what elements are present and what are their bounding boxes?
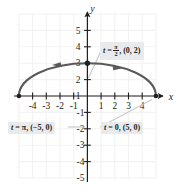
point-t-equals-0 [154, 94, 159, 99]
parametric-ellipse-figure: -4 -3 -2 -1 1 2 3 4 5 4 3 2 1 -1 -2 -3 -… [0, 0, 187, 192]
leader-line-top [89, 52, 101, 78]
y-tick-label-1: 1 [76, 91, 81, 101]
y-tick-label-2: 2 [76, 75, 81, 85]
x-tick-label-1: 1 [99, 101, 104, 111]
y-tick-label--4: -4 [77, 157, 85, 167]
x-tick-label-3: 3 [126, 101, 131, 111]
callout-t-pi-over-2: t = π 2 , (0, 2) [100, 42, 144, 60]
coordinate-plane: -4 -3 -2 -1 1 2 3 4 5 4 3 2 1 -1 -2 -3 -… [0, 0, 187, 192]
x-tick-label-2: 2 [112, 101, 117, 111]
y-tick-label--2: -2 [77, 124, 85, 134]
y-tick-label-4: 4 [76, 42, 81, 52]
callout-left-point: (−5, 0) [28, 124, 52, 132]
y-tick-label--3: -3 [77, 140, 85, 150]
callout-t-pi: t = π , (−5, 0) [8, 122, 55, 134]
x-tick-label--2: -2 [56, 101, 64, 111]
x-tick-label--4: -4 [29, 101, 37, 111]
y-tick-label--5: -5 [77, 173, 85, 183]
callout-top-denominator: 2 [113, 50, 118, 58]
callout-top-fraction: π 2 [113, 44, 118, 58]
y-tick-label-5: 5 [76, 26, 81, 36]
point-t-equals-pi [17, 94, 22, 99]
y-tick-label--1: -1 [77, 108, 85, 118]
y-axis-label: y [89, 3, 95, 14]
callout-right-point: (5, 0) [121, 124, 140, 132]
x-axis-label: x [168, 91, 174, 102]
point-t-equals-pi-over-2 [85, 61, 90, 66]
callout-t-zero: t = 0 , (5, 0) [101, 122, 143, 134]
callout-top-equals: = [106, 47, 113, 55]
callout-top-point: (0, 2) [121, 47, 140, 55]
axis-lines [14, 12, 163, 182]
x-tick-label--3: -3 [42, 101, 50, 111]
